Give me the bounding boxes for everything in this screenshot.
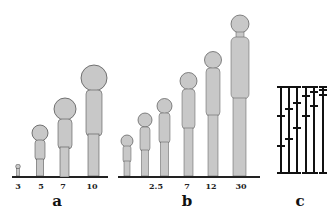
figure-b-5: [203, 51, 223, 176]
figure-b-4: [179, 72, 198, 176]
proportion-rod-6: [322, 86, 324, 174]
panel-b-tick-label: 7: [184, 181, 190, 191]
child-figure-age-3: [14, 164, 22, 176]
child-figure-age-5: [31, 124, 49, 176]
panel-b-tick-label: 12: [205, 181, 216, 191]
panel-a-label: a: [52, 192, 62, 210]
child-figure-age-7: [53, 97, 77, 177]
proportion-rod-3: [296, 86, 298, 174]
panel-b-tick-label: 2.5: [149, 181, 163, 191]
proportion-rod-5: [313, 86, 315, 174]
proportion-rod-1: [280, 86, 282, 174]
panel-b-tick-label: 30: [235, 181, 246, 191]
proportion-rod-2: [288, 86, 290, 174]
adult-figure-age-30: [228, 14, 252, 176]
panel-b-ground-line: [118, 176, 260, 178]
figure-b-3: [156, 98, 173, 176]
panel-b-label: b: [182, 192, 193, 210]
panel-a-tick-label: 10: [86, 181, 97, 191]
panel-a-tick-label: 5: [38, 181, 44, 191]
figure-b-2: [137, 112, 153, 176]
panel-a-tick-label: 7: [60, 181, 66, 191]
figure-b-1: [120, 134, 134, 176]
panel-c-label: c: [295, 192, 304, 210]
child-figure-age-10: [80, 64, 108, 176]
proportion-rod-4: [305, 86, 307, 174]
panel-a-tick-label: 3: [15, 181, 21, 191]
